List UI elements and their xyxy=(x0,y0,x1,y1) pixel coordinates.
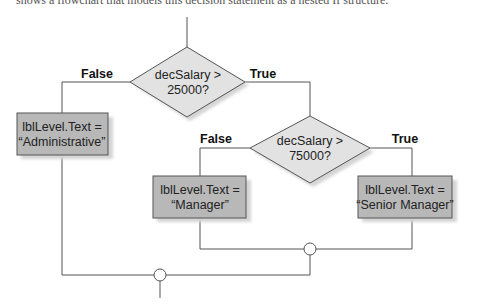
merge-connector-outer xyxy=(154,269,166,281)
decision-diamond xyxy=(130,47,245,117)
merge-connector-inner xyxy=(304,243,316,255)
process-text-line2: “Administrative” xyxy=(19,135,106,149)
d2-false-line xyxy=(200,148,250,176)
d2-true-line xyxy=(370,148,412,176)
process-text-line1: lblLevel.Text = xyxy=(365,183,445,197)
decision-salary-25000: decSalary > 25000? xyxy=(130,47,249,121)
process-administrative: lblLevel.Text = “Administrative” xyxy=(17,113,113,159)
d1-true-label: True xyxy=(250,67,276,81)
d1-false-line xyxy=(62,82,130,113)
d2-false-label: False xyxy=(200,132,232,146)
p2-out-line xyxy=(200,218,304,249)
decision-text-line1: decSalary > xyxy=(155,68,221,82)
process-text-line2: “Senior Manager” xyxy=(356,198,453,212)
decision-salary-75000: decSalary > 75000? xyxy=(250,116,374,187)
process-text-line1: lblLevel.Text = xyxy=(22,120,102,134)
process-text-line1: lblLevel.Text = xyxy=(160,183,240,197)
process-text-line2: “Manager” xyxy=(171,198,229,212)
merge1-out-line xyxy=(166,255,310,275)
d1-true-line xyxy=(245,82,310,116)
p3-out-line xyxy=(316,218,412,249)
d2-true-label: True xyxy=(392,132,418,146)
flowchart: decSalary > 25000? False True decSalary … xyxy=(0,0,478,305)
process-manager: lblLevel.Text = “Manager” xyxy=(153,176,251,222)
process-senior-manager: lblLevel.Text = “Senior Manager” xyxy=(356,176,457,222)
decision-text-line2: 25000? xyxy=(167,83,209,97)
decision-text-line1: decSalary > xyxy=(277,134,343,148)
d1-false-label: False xyxy=(81,67,113,81)
decision-text-line2: 75000? xyxy=(289,149,331,163)
